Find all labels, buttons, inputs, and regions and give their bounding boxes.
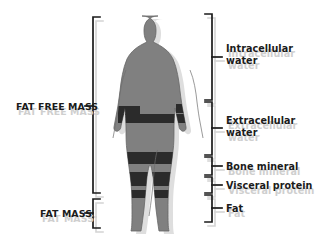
label-extracellular-water-line1: Extracellular — [226, 115, 295, 126]
diagram-canvas: FAT FREE MASS FAT FREE MASS FAT MASS FAT… — [0, 0, 316, 240]
label-fat: Fat Fat — [226, 203, 243, 215]
label-intracellular-water-line2: water — [226, 55, 257, 66]
label-intracellular-water-line1: Intracellular — [226, 43, 293, 54]
label-fat-free-mass-text: FAT FREE MASS — [16, 101, 98, 112]
label-bone-mineral: Bone mineral Bone mineral — [226, 161, 298, 173]
label-fat-text: Fat — [226, 203, 243, 214]
label-fat-mass: FAT MASS FAT MASS — [40, 208, 92, 220]
label-fat-free-mass: FAT FREE MASS FAT FREE MASS — [16, 101, 98, 113]
label-visceral-protein: Visceral protein Visceral protein — [226, 180, 312, 192]
right-bracket-intracellular-water — [205, 14, 222, 100]
right-bracket-extracellular-water — [205, 102, 222, 155]
label-fat-mass-text: FAT MASS — [40, 208, 92, 219]
label-extracellular-water-line2: water — [226, 127, 257, 138]
label-intracellular-water: Intracellular Intracellular water water — [226, 43, 293, 67]
label-visceral-protein-text: Visceral protein — [226, 180, 312, 191]
label-extracellular-water: Extracellular Extracellular water water — [226, 115, 295, 139]
label-bone-mineral-text: Bone mineral — [226, 161, 298, 172]
left-brackets-ghost — [89, 21, 103, 232]
